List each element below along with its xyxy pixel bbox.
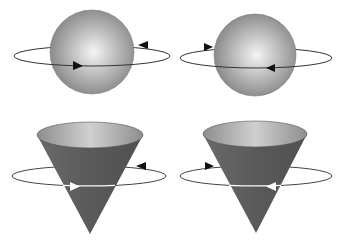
- sphere-right-group: [180, 14, 332, 96]
- sphere-left-group: [14, 10, 170, 94]
- sphere-left: [50, 10, 134, 94]
- cone-right-body: [203, 134, 307, 233]
- cone-right-top: [203, 121, 307, 147]
- rotation-diagram: [0, 0, 345, 245]
- cone-right-group: [180, 121, 332, 233]
- cone-left-group: [12, 122, 166, 234]
- arrow-back-right-icon: [205, 162, 214, 170]
- diagram-canvas: [0, 0, 345, 245]
- cone-left-top: [37, 122, 143, 148]
- sphere-right: [214, 14, 296, 96]
